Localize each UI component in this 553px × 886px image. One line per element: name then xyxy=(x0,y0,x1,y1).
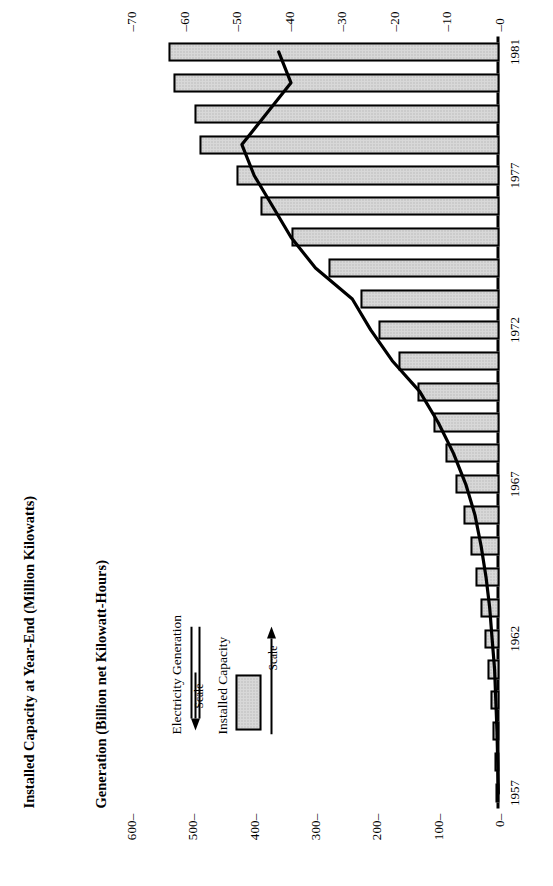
capacity-tick-50: –50 xyxy=(228,11,244,31)
generation-tick-300: 300– xyxy=(307,813,323,840)
capacity-tick-20: –20 xyxy=(386,11,402,31)
line-series xyxy=(131,36,499,808)
chart-stage: Installed Capacity at Year-End (Million … xyxy=(0,0,553,886)
capacity-tick-70: –70 xyxy=(123,11,139,31)
year-label-1977: 1977 xyxy=(506,162,522,188)
generation-tick-0: 0– xyxy=(491,813,507,826)
capacity-axis-title: Installed Capacity at Year-End (Million … xyxy=(20,495,37,808)
capacity-tick-10: –10 xyxy=(438,11,454,31)
capacity-tick-30: –30 xyxy=(333,11,349,31)
plot-area: 0–100–200–300–400–500–600– –0–10–20–30–4… xyxy=(131,36,499,808)
generation-tick-200: 200– xyxy=(368,813,384,840)
generation-tick-400: 400– xyxy=(246,813,262,840)
generation-tick-500: 500– xyxy=(184,813,200,840)
year-label-1972: 1972 xyxy=(506,316,522,342)
capacity-tick-40: –40 xyxy=(281,11,297,31)
capacity-tick-0: –0 xyxy=(491,18,507,31)
generation-tick-600: 600– xyxy=(123,813,139,840)
generation-line xyxy=(241,51,497,792)
year-label-1967: 1967 xyxy=(506,471,522,497)
year-label-1957: 1957 xyxy=(506,780,522,806)
capacity-tick-60: –60 xyxy=(176,11,192,31)
generation-axis-title: Generation (Billion net Kilowatt-Hours) xyxy=(92,560,109,809)
year-label-1962: 1962 xyxy=(506,625,522,651)
generation-tick-100: 100– xyxy=(430,813,446,840)
figure-frame: Installed Capacity at Year-End (Million … xyxy=(0,0,553,886)
year-label-1981: 1981 xyxy=(506,38,522,64)
